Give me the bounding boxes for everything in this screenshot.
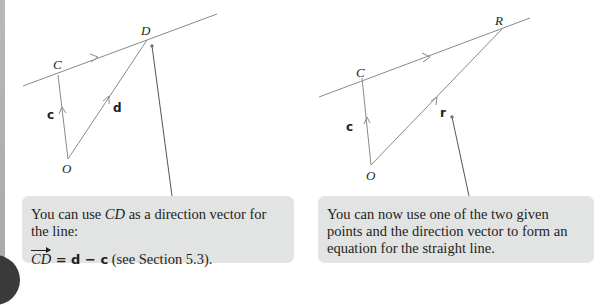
label-vector-c-left: c bbox=[47, 108, 54, 122]
right-vector-r-arrow bbox=[431, 97, 437, 105]
label-vector-d: d bbox=[113, 101, 122, 115]
vector-c-symbol: c bbox=[100, 252, 108, 267]
right-diagram bbox=[319, 18, 530, 196]
right-callout-box: You can now use one of the two given poi… bbox=[318, 196, 594, 263]
vector-CD-notation: CD bbox=[31, 251, 51, 268]
left-callout-box: You can use CD as a direction vector for… bbox=[22, 196, 294, 263]
label-point-C-left: C bbox=[53, 57, 62, 72]
callout-text: You can use bbox=[31, 206, 105, 222]
left-callout-line-2: CD = d − c (see Section 5.3). bbox=[31, 251, 286, 268]
left-straight-line bbox=[23, 14, 217, 86]
left-pointer-line bbox=[152, 46, 172, 196]
right-straight-line bbox=[319, 18, 530, 97]
label-point-C-right: C bbox=[356, 65, 365, 80]
label-point-O-right: O bbox=[366, 168, 376, 183]
label-point-D: D bbox=[140, 23, 151, 38]
label-vector-r: r bbox=[440, 106, 446, 120]
right-pointer-line bbox=[452, 117, 469, 196]
minus-sign: − bbox=[80, 252, 100, 267]
left-callout-line-1: You can use CD as a direction vector for… bbox=[31, 206, 286, 240]
left-vector-d-line bbox=[68, 40, 147, 159]
label-point-O-left: O bbox=[62, 161, 72, 176]
label-point-R: R bbox=[494, 13, 503, 28]
callout-segment-CD: CD bbox=[105, 206, 125, 222]
label-vector-c-right: c bbox=[346, 120, 353, 134]
left-pointer-dot bbox=[151, 45, 154, 48]
left-vector-c-line bbox=[58, 75, 68, 159]
equals-sign: = bbox=[51, 252, 71, 267]
left-vector-d-arrow bbox=[103, 96, 109, 104]
section-reference: (see Section 5.3). bbox=[108, 251, 212, 267]
right-callout-text: You can now use one of the two given poi… bbox=[327, 206, 586, 257]
right-pointer-dot bbox=[451, 116, 454, 119]
